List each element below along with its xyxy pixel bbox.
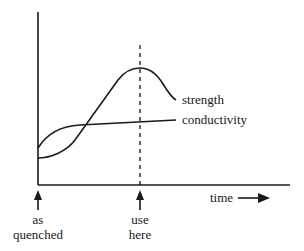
use-here-arrow-icon [136,190,144,210]
strength-curve [38,68,176,158]
as-quenched-label-line1: as [33,212,44,227]
as-quenched-arrow-icon [34,190,42,210]
conductivity-curve [38,120,176,148]
diagram-canvas: strength conductivity as quenched use he… [0,0,304,251]
right-arrow-icon [238,193,270,203]
strength-label: strength [182,92,224,107]
use-here-label-line1: use [131,212,149,227]
conductivity-label: conductivity [182,112,247,127]
as-quenched-label-line2: quenched [13,227,63,242]
use-here-label-line2: here [129,227,152,242]
time-axis-label: time [210,190,233,205]
